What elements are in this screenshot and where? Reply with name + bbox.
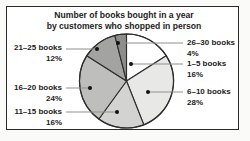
chart-figure: Number of books bought in a year by cust…	[0, 0, 250, 141]
marker-dot-icon	[88, 86, 92, 90]
slice-label: 11–15 books	[14, 106, 62, 117]
slice-label: 21–25 books	[14, 42, 62, 53]
slice-label: 6–10 books	[187, 86, 231, 97]
slice-label: 1–5 books	[187, 58, 226, 69]
marker-dot-icon	[129, 62, 133, 66]
slice-label: 16–20 books	[14, 82, 62, 93]
slice-percent: 12%	[14, 53, 62, 64]
label-16-20-books: 16–20 books 24%	[14, 82, 62, 104]
label-21-25-books: 21–25 books 12%	[14, 42, 62, 64]
marker-dot-icon	[116, 41, 120, 45]
slice-percent: 16%	[187, 69, 226, 80]
slice-percent: 28%	[187, 97, 231, 108]
label-6-10-books: 6–10 books 28%	[187, 86, 231, 108]
label-1-5-books: 1–5 books 16%	[187, 58, 226, 80]
label-11-15-books: 11–15 books 16%	[14, 106, 62, 128]
marker-dot-icon	[115, 110, 119, 114]
slice-percent: 16%	[14, 117, 62, 128]
marker-dot-icon	[146, 90, 150, 94]
slice-label: 26–30 books	[187, 37, 235, 48]
label-26-30-books: 26–30 books 4%	[187, 37, 235, 59]
slice-percent: 24%	[14, 93, 62, 104]
marker-dot-icon	[95, 47, 99, 51]
